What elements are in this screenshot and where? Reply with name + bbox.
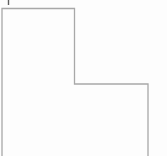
l-shape-outline [2,9,148,157]
drawing-canvas [0,0,167,156]
diagram-svg [0,0,167,156]
